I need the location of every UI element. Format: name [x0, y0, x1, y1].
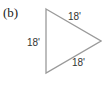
side-label-left: 18' [27, 38, 40, 48]
side-label-bottom: 18' [72, 58, 85, 68]
triangle [0, 0, 102, 86]
side-label-top: 18' [68, 12, 81, 22]
